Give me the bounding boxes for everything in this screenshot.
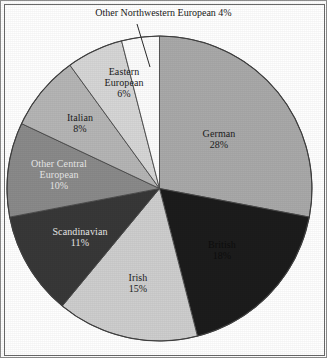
slice-label-eastern-european-value: 6%: [91, 88, 157, 99]
slice-label-eastern-european: Eastern European 6%: [91, 66, 157, 100]
slice-label-other-central-european-name-line2: European: [12, 169, 106, 180]
slice-label-scandinavian-value: 11%: [33, 237, 127, 248]
slice-label-british: British 18%: [186, 239, 258, 261]
slice-label-scandinavian-name: Scandinavian: [33, 226, 127, 237]
pie-slice-german[interactable]: [160, 36, 313, 217]
slice-label-irish: Irish 15%: [106, 272, 170, 294]
slice-label-italian-name: Italian: [48, 112, 112, 123]
slice-label-italian-value: 8%: [48, 123, 112, 134]
slice-label-eastern-european-name-line1: Eastern: [91, 66, 157, 77]
slice-label-irish-name: Irish: [106, 272, 170, 283]
slice-label-scandinavian: Scandinavian 11%: [33, 226, 127, 248]
callout-label-other-northwestern-european: Other Northwestern European 4%: [0, 7, 327, 18]
slice-label-german: German 28%: [183, 128, 255, 150]
pie-chart-figure: Other Northwestern European 4% German 28…: [0, 0, 327, 358]
slice-label-italian: Italian 8%: [48, 112, 112, 134]
slice-label-german-name: German: [183, 128, 255, 139]
slice-label-british-name: British: [186, 239, 258, 250]
slice-label-eastern-european-name-line2: European: [91, 77, 157, 88]
slice-label-other-central-european: Other Central European 10%: [12, 158, 106, 192]
slice-label-german-value: 28%: [183, 139, 255, 150]
slice-label-british-value: 18%: [186, 250, 258, 261]
slice-label-other-central-european-value: 10%: [12, 180, 106, 191]
slice-label-other-central-european-name-line1: Other Central: [12, 158, 106, 169]
slice-label-irish-value: 15%: [106, 283, 170, 294]
